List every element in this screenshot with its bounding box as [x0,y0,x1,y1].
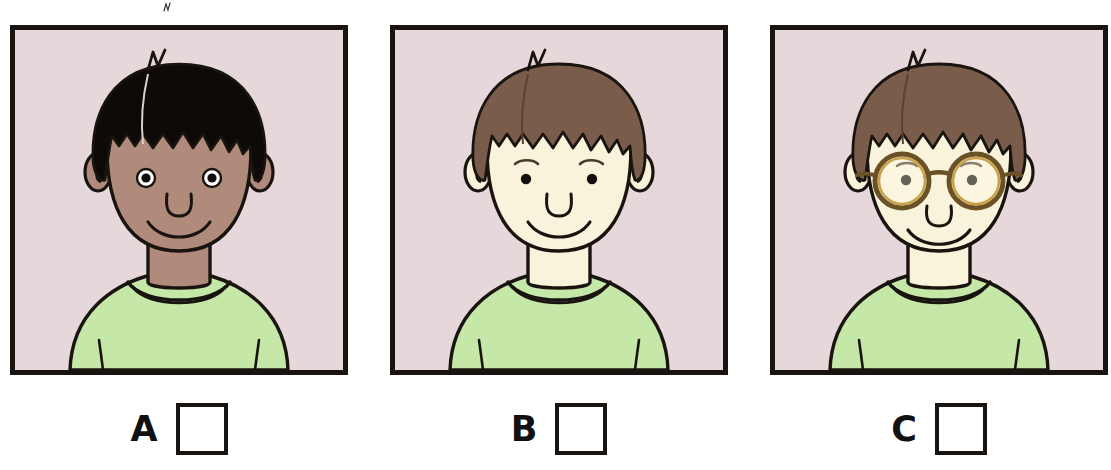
answer-letter-a: A [130,412,157,447]
portrait-illustration-c [775,30,1103,370]
glasses-temple-right-icon [1004,174,1021,176]
portrait-illustration-a [15,30,343,370]
portrait-frame-c[interactable] [770,25,1108,375]
answer-checkbox-a[interactable] [176,403,228,455]
answer-checkbox-b[interactable] [555,403,607,455]
portrait-illustration-b [395,30,723,370]
pupil-right-a [207,173,216,182]
answer-option-c[interactable]: C [770,396,1108,462]
answer-letter-b: B [511,412,538,447]
worksheet-canvas: A B C [0,0,1111,470]
answer-letter-c: C [891,412,917,447]
glasses-lens-left-icon [875,154,929,208]
glasses-lens-right-icon [949,154,1003,208]
pupil-left-a [141,173,150,182]
answer-option-a[interactable]: A [10,396,348,462]
eye-left-b [521,174,531,184]
glasses-temple-left-icon [857,174,874,176]
portrait-frame-a[interactable] [10,25,348,375]
portrait-frame-b[interactable] [390,25,728,375]
answer-option-b[interactable]: B [390,396,728,462]
answer-checkbox-c[interactable] [935,403,987,455]
stray-hair-mark-icon [163,2,171,12]
eye-right-b [587,174,597,184]
